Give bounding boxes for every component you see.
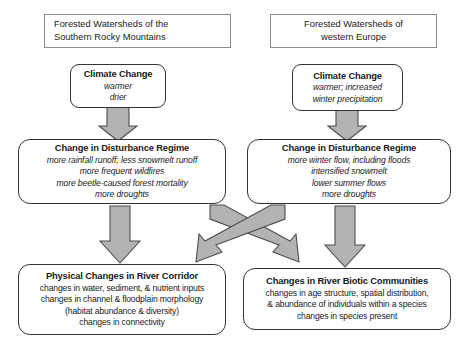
box-disturbance-regime-western-europe: Change in Disturbance Regime more winter…: [247, 139, 451, 204]
box-title: Changes in River Biotic Communities: [266, 275, 428, 287]
arrow-left-disturbance-to-physical: [100, 206, 140, 263]
box-changes-river-biotic-communities: Changes in River Biotic Communities chan…: [243, 268, 451, 330]
box-climate-change-southern-rocky-mountains: Climate Change warmer drier: [70, 64, 166, 108]
box-item: changes in connectivity: [79, 317, 164, 329]
box-title: Change in Disturbance Regime: [282, 142, 416, 154]
box-item: more droughts: [95, 189, 149, 200]
box-item: changes in age structure, spatial distri…: [265, 288, 428, 300]
box-item: changes in channel & floodplain morpholo…: [41, 294, 203, 306]
box-item: drier: [110, 92, 127, 103]
box-item: (habitat abundance & diversity): [65, 306, 179, 318]
box-item: changes in water, sediment, & nutrient i…: [40, 283, 204, 295]
box-item: warmer; increased: [313, 82, 382, 93]
box-item: & abundance of individuals within a spec…: [267, 299, 426, 311]
box-item: more beetle-caused forest mortality: [56, 178, 187, 189]
box-title: Climate Change: [313, 70, 382, 82]
arrow-right-climate-to-disturbance: [328, 110, 366, 141]
box-item: more droughts: [322, 189, 376, 200]
arrow-right-disturbance-to-biotic: [325, 206, 365, 267]
box-disturbance-regime-southern-rocky-mountains: Change in Disturbance Regime more rainfa…: [18, 139, 226, 204]
box-title: Change in Disturbance Regime: [55, 142, 189, 154]
box-item: warmer: [104, 81, 132, 92]
box-item: more winter flow, including floods: [288, 155, 411, 166]
box-item: changes in species present: [297, 311, 397, 323]
box-item: more rainfall runoff; less snowmelt runo…: [47, 155, 198, 166]
box-item: winter precipitation: [313, 94, 383, 105]
box-item: more frequent wildfires: [80, 166, 165, 177]
box-physical-changes-river-corridor: Physical Changes in River Corridor chang…: [18, 264, 226, 335]
diagram-canvas: Forested Watersheds of the Southern Rock…: [0, 0, 459, 349]
box-title: Climate Change: [84, 68, 153, 80]
box-climate-change-western-europe: Climate Change warmer; increased winter …: [292, 64, 403, 111]
box-item: lower summer flows: [312, 178, 386, 189]
box-item: intensified snowmelt: [311, 166, 386, 177]
arrow-left-climate-to-disturbance: [99, 107, 137, 141]
box-title: Physical Changes in River Corridor: [46, 270, 198, 282]
